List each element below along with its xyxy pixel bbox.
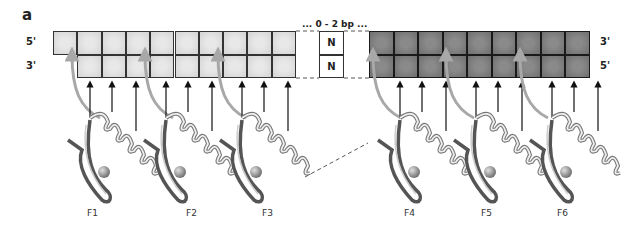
zinc-ion-sphere (98, 166, 110, 178)
spacer-dashed-lines (296, 31, 369, 78)
zinc-ion-sphere (484, 166, 496, 178)
zinc-finger-1 (68, 54, 158, 202)
finger-label-f1: F1 (87, 208, 98, 218)
diagram-overlay (0, 0, 631, 232)
zinc-finger-6 (520, 54, 620, 202)
linker-dashed-line (305, 143, 368, 177)
finger-label-f4: F4 (404, 208, 415, 218)
zinc-ion-sphere (250, 166, 262, 178)
zinc-ion-sphere (560, 166, 572, 178)
zinc-finger-3 (218, 54, 310, 202)
zinc-finger-4 (373, 54, 468, 202)
zinc-ion-sphere (408, 166, 420, 178)
zinc-finger-5 (446, 54, 544, 202)
finger-label-f3: F3 (262, 208, 273, 218)
zinc-ion-sphere (174, 166, 186, 178)
finger-label-f6: F6 (557, 208, 568, 218)
finger-label-f2: F2 (186, 208, 197, 218)
finger-label-f5: F5 (481, 208, 492, 218)
